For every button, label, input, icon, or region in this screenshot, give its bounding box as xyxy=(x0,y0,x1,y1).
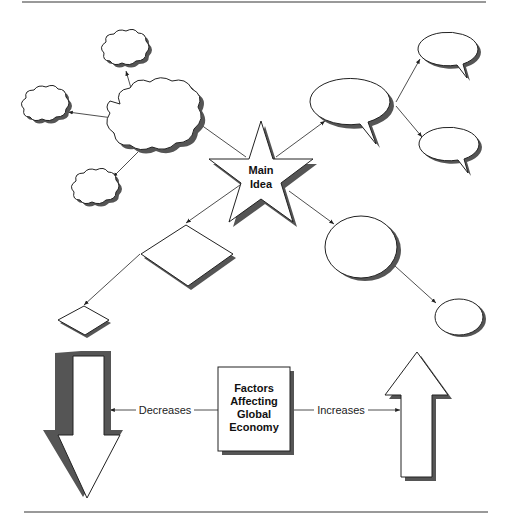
central-box[interactable]: Factors Affecting Global Economy xyxy=(218,367,294,455)
main-idea-line1: Main xyxy=(248,164,273,176)
increases-label: Increases xyxy=(317,404,365,416)
ellipse-large[interactable] xyxy=(325,216,401,281)
cloud-top[interactable] xyxy=(101,29,152,67)
down-arrow-decreases[interactable] xyxy=(43,351,123,498)
central-box-line2: Affecting xyxy=(230,395,278,407)
central-box-line3: Global xyxy=(237,408,271,420)
up-arrow-increases[interactable] xyxy=(385,352,452,481)
speech-bubble-main[interactable] xyxy=(310,78,394,148)
graphic-organizer: Main Idea Factors Affecting Global Econo… xyxy=(0,0,512,513)
decreases-label: Decreases xyxy=(139,404,192,416)
main-idea-star[interactable]: Main Idea xyxy=(209,121,317,227)
ellipse-small[interactable] xyxy=(435,299,486,337)
speech-bubble-bottom-right[interactable] xyxy=(419,127,482,176)
cloud-main[interactable] xyxy=(107,78,205,154)
diamond-large[interactable] xyxy=(141,225,236,290)
central-box-line4: Economy xyxy=(229,421,279,433)
central-box-line1: Factors xyxy=(234,382,274,394)
cloud-left[interactable] xyxy=(21,85,72,123)
cloud-bottom[interactable] xyxy=(71,168,122,206)
main-idea-line2: Idea xyxy=(250,178,273,190)
diamond-small[interactable] xyxy=(58,306,111,338)
speech-bubble-top-right[interactable] xyxy=(418,32,481,81)
